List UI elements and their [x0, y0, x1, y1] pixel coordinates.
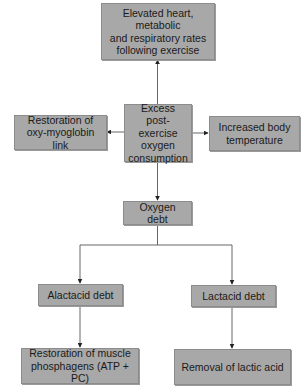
node-label: Restoration of oxy-myoglobin link	[19, 114, 102, 152]
node-label: Increased body temperature	[219, 121, 291, 146]
node-label: Alactacid debt	[48, 289, 114, 302]
node-oxygen-debt: Oxygen debt	[123, 201, 192, 225]
node-restoration-oxy-myoglobin: Restoration of oxy-myoglobin link	[14, 115, 107, 150]
node-label: Lactacid debt	[202, 290, 264, 303]
edge-oxygen-debt-alactacid	[80, 245, 158, 283]
node-label: Elevated heart, metabolic and respirator…	[106, 7, 210, 57]
node-label: Removal of lactic acid	[181, 361, 283, 374]
node-epoc: Excess post-exercise oxygen consumption	[124, 104, 192, 162]
node-restoration-phosphagens: Restoration of muscle phosphagens (ATP +…	[21, 348, 139, 384]
node-increased-temperature: Increased body temperature	[209, 116, 300, 151]
node-elevated-rates: Elevated heart, metabolic and respirator…	[101, 3, 215, 60]
node-label: Oxygen debt	[128, 201, 187, 226]
node-lactacid-debt: Lactacid debt	[191, 285, 276, 307]
node-label: Restoration of muscle phosphagens (ATP +…	[26, 347, 134, 385]
edge-oxygen-debt-lactacid	[158, 245, 233, 284]
node-alactacid-debt: Alactacid debt	[38, 284, 123, 306]
node-removal-lactic-acid: Removal of lactic acid	[174, 349, 291, 385]
node-label: Excess post-exercise oxygen consumption	[128, 102, 188, 165]
